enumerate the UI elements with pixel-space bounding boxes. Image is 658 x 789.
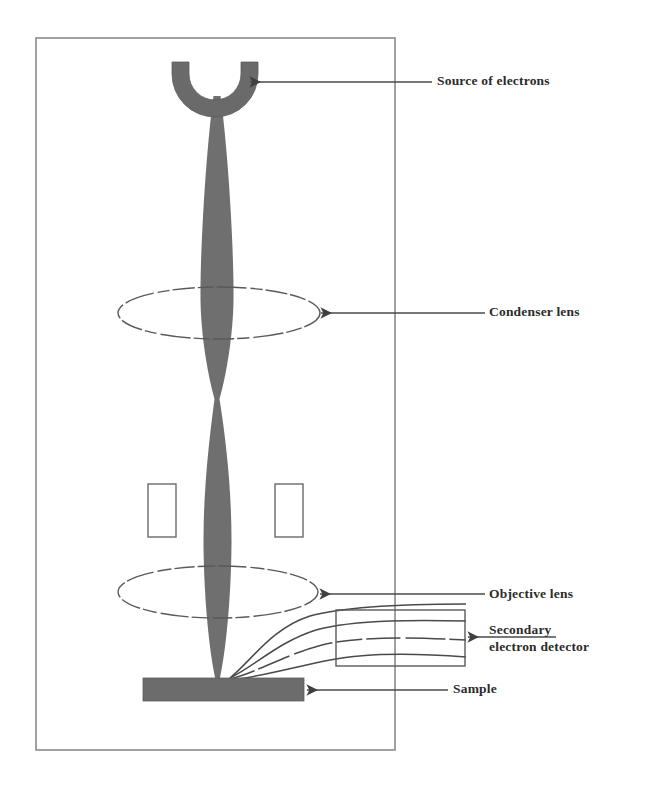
scan-coil-right-plate (275, 484, 303, 537)
label-sample: Sample (453, 681, 497, 698)
label-objective-lens: Objective lens (489, 586, 573, 603)
sem-schematic-figure: Source of electrons Condenser lens Objec… (0, 0, 658, 789)
secondary-electron-path-2 (230, 620, 466, 678)
secondary-electron-path-4 (230, 654, 466, 680)
scan-coil-left-plate (148, 484, 176, 537)
sem-diagram-canvas (0, 0, 658, 789)
source-of-electrons-cup (172, 62, 258, 117)
sample-block (143, 678, 304, 701)
secondary-electron-detector-box (336, 610, 465, 666)
electron-beam-upper (200, 96, 233, 399)
label-source-of-electrons: Source of electrons (437, 73, 550, 90)
electron-beam-lower (204, 399, 232, 680)
label-condenser-lens: Condenser lens (489, 304, 580, 321)
label-secondary-electron-detector: Secondary electron detector (489, 622, 589, 656)
